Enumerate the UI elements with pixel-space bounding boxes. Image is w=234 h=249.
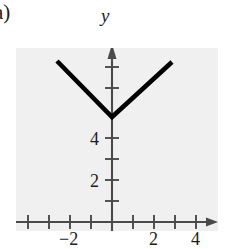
y-axis-arrow-icon [108, 48, 117, 59]
graph-figure: a) y [0, 0, 234, 249]
y-tick-label-4: 4 [90, 130, 99, 148]
y-axis [105, 48, 119, 231]
x-axis [16, 215, 218, 229]
absolute-value-curve [57, 61, 172, 117]
x-tick-label-4: 4 [191, 230, 200, 248]
y-tick-label-2: 2 [90, 172, 99, 190]
x-axis-arrow-icon [206, 218, 218, 227]
part-label: a) [0, 2, 10, 23]
x-tick-label-neg2: −2 [59, 230, 78, 248]
y-axis-label: y [101, 6, 109, 25]
plot-canvas [16, 48, 218, 231]
plot-area: 4 2 −2 2 4 [16, 48, 218, 231]
x-tick-label-2: 2 [149, 230, 158, 248]
